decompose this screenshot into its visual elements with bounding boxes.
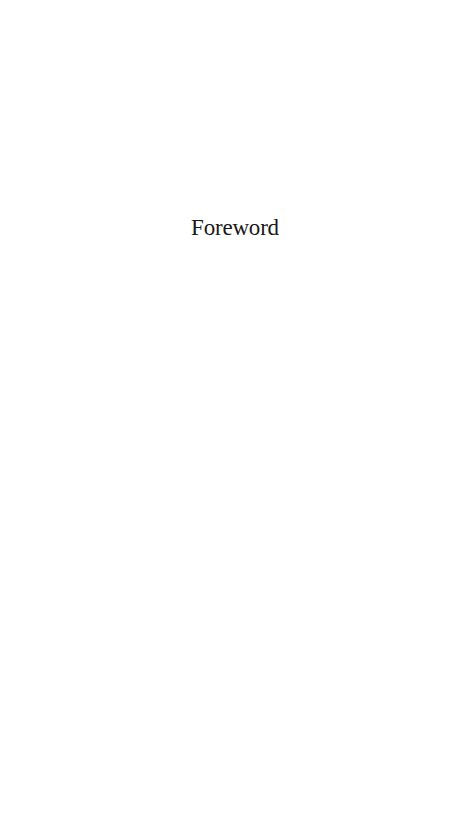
document-page: Foreword — [0, 0, 470, 813]
section-title: Foreword — [0, 214, 470, 242]
